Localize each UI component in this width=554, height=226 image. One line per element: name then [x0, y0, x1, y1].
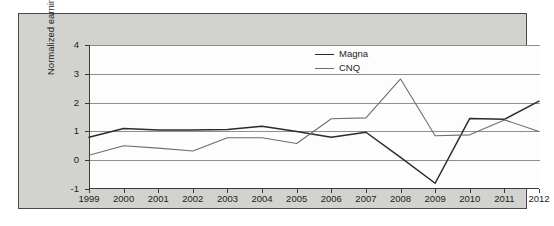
x-tick-mark: [158, 189, 159, 193]
x-tick-label: 2007: [349, 194, 383, 204]
x-tick-mark: [193, 189, 194, 193]
y-tick-label: 2: [57, 98, 79, 108]
x-tick-label: 2004: [245, 194, 279, 204]
legend-swatch-magna: [315, 54, 334, 55]
x-tick-label: 2005: [280, 194, 314, 204]
x-tick-mark: [504, 189, 505, 193]
legend-swatch-cnq: [315, 68, 334, 69]
x-tick-mark: [401, 189, 402, 193]
y-tick-mark: [85, 74, 89, 75]
x-tick-label: 2001: [141, 194, 175, 204]
y-tick-mark: [85, 160, 89, 161]
x-tick-label: 2003: [210, 194, 244, 204]
y-tick-mark: [85, 103, 89, 104]
legend-item-cnq: CNQ: [315, 61, 425, 75]
y-tick-label: 0: [57, 155, 79, 165]
x-tick-mark: [227, 189, 228, 193]
x-tick-label: 1999: [72, 194, 106, 204]
x-tick-mark: [331, 189, 332, 193]
x-tick-mark: [435, 189, 436, 193]
x-tick-mark: [539, 189, 540, 193]
y-tick-label: 3: [57, 69, 79, 79]
y-tick-mark: [85, 45, 89, 46]
x-tick-mark: [297, 189, 298, 193]
x-tick-label: 2002: [176, 194, 210, 204]
x-tick-label: 2011: [487, 194, 521, 204]
legend-item-magna: Magna: [315, 47, 425, 61]
y-axis-label-container: Normalized earnings per share: [63, 45, 79, 189]
chart-panel: Normalized earnings per share MagnaCNQ -…: [18, 13, 527, 209]
x-tick-mark: [470, 189, 471, 193]
x-tick-mark: [366, 189, 367, 193]
series-line-cnq: [89, 79, 539, 155]
y-tick-label: 4: [57, 40, 79, 50]
x-tick-label: 2009: [418, 194, 452, 204]
x-tick-label: 2008: [384, 194, 418, 204]
series-line-magna: [89, 101, 539, 183]
legend-label: CNQ: [339, 63, 360, 73]
x-tick-mark: [89, 189, 90, 193]
chart-legend: MagnaCNQ: [315, 47, 425, 75]
x-tick-mark: [262, 189, 263, 193]
x-tick-label: 2012: [522, 194, 554, 204]
x-tick-label: 2000: [107, 194, 141, 204]
y-tick-label: 1: [57, 126, 79, 136]
legend-label: Magna: [339, 49, 368, 59]
y-axis-label: Normalized earnings per share: [45, 0, 56, 75]
x-tick-mark: [124, 189, 125, 193]
data-series-layer: [89, 45, 539, 189]
x-tick-label: 2010: [453, 194, 487, 204]
y-tick-mark: [85, 131, 89, 132]
y-tick-label: -1: [57, 184, 79, 194]
x-tick-label: 2006: [314, 194, 348, 204]
